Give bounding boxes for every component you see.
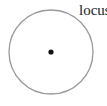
- locus-label: locus: [79, 3, 107, 18]
- center-point: [48, 49, 53, 54]
